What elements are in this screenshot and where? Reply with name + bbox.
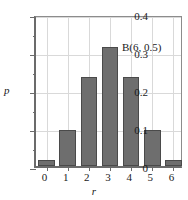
- y-tick-label: 0.1: [134, 125, 148, 136]
- x-tick-label: 3: [98, 172, 118, 183]
- binomial-distribution-chart: 00.10.20.30.4 0123456 p r B(6, 0.5): [0, 0, 188, 200]
- y-axis-title: p: [4, 84, 10, 96]
- bar: [81, 77, 97, 166]
- x-tick-label: 6: [161, 172, 181, 183]
- bar: [102, 47, 118, 166]
- x-tick-label: 4: [119, 172, 139, 183]
- y-tick-label: 0.2: [134, 87, 148, 98]
- x-tick-label: 1: [56, 172, 76, 183]
- x-tick-label: 0: [35, 172, 55, 183]
- bar: [38, 160, 54, 166]
- bar: [59, 130, 75, 166]
- bar: [165, 160, 181, 166]
- x-tick-label: 5: [140, 172, 160, 183]
- y-tick-label: 0.4: [134, 11, 148, 22]
- x-tick-label: 2: [77, 172, 97, 183]
- x-axis-title: r: [0, 185, 188, 197]
- bar-series: [36, 17, 181, 166]
- y-tick-major: [30, 169, 36, 170]
- distribution-annotation: B(6, 0.5): [122, 41, 161, 53]
- plot-area: [34, 16, 182, 168]
